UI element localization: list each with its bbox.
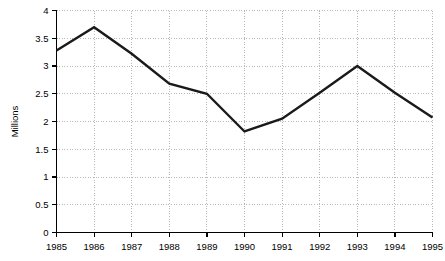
x-tick-label: 1986 — [84, 241, 105, 252]
x-tick-label: 1988 — [159, 241, 180, 252]
y-tick-label: 2.5 — [35, 88, 48, 99]
x-tick-label: 1987 — [121, 241, 142, 252]
y-tick-label: 0 — [43, 227, 48, 238]
y-tick-label: 3.5 — [35, 33, 48, 44]
x-tick-label: 1992 — [309, 241, 330, 252]
y-axis-title: Millions — [9, 105, 20, 137]
y-tick-label: 3 — [43, 60, 48, 71]
line-chart: 00.511.522.533.54 1985198619871988198919… — [0, 0, 445, 261]
data-series-line — [57, 27, 433, 131]
y-tick-label: 1.5 — [35, 144, 48, 155]
y-tick-label: 4 — [43, 5, 48, 16]
chart-canvas: 00.511.522.533.54 1985198619871988198919… — [0, 0, 445, 261]
x-axis-tick-labels: 1985198619871988198919901991199219931994… — [46, 241, 443, 252]
y-tick-label: 2 — [43, 116, 48, 127]
y-tick-label: 0.5 — [35, 199, 48, 210]
x-tick-label: 1985 — [46, 241, 67, 252]
gridlines-group — [57, 11, 433, 233]
y-tick-label: 1 — [43, 171, 48, 182]
x-tick-label: 1989 — [196, 241, 217, 252]
x-tick-label: 1994 — [384, 241, 405, 252]
y-axis-tick-labels: 00.511.522.533.54 — [35, 5, 48, 238]
x-tick-label: 1991 — [272, 241, 293, 252]
x-tick-label: 1990 — [234, 241, 255, 252]
x-tick-label: 1995 — [422, 241, 443, 252]
x-tick-label: 1993 — [347, 241, 368, 252]
